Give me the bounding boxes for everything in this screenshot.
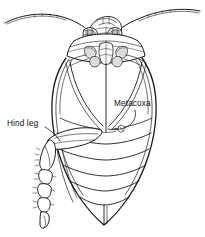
label-metacoxa: Metacoxa (114, 99, 151, 107)
beetle-ventral-diagram: Hind leg Metacoxa (0, 0, 205, 237)
antenna-right (113, 9, 200, 35)
antenna-left (5, 14, 92, 34)
label-hind-leg: Hind leg (7, 119, 38, 127)
